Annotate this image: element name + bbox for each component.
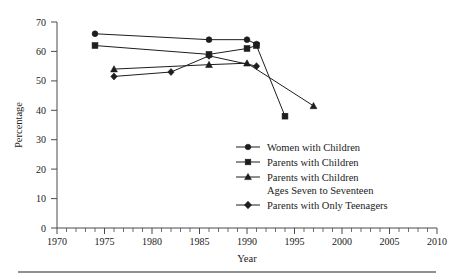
series-parents-with-children-ages-seven-to-seventeen bbox=[111, 60, 317, 109]
x-tick-label: 1970 bbox=[47, 236, 67, 247]
x-tick-label: 1990 bbox=[237, 236, 257, 247]
square-marker-icon bbox=[245, 159, 251, 165]
x-tick-label: 2005 bbox=[380, 236, 400, 247]
triangle-data-marker bbox=[310, 102, 317, 108]
square-data-marker bbox=[244, 46, 250, 52]
legend-label: Parents with Children bbox=[267, 172, 359, 183]
line-chart: 0 10 20 30 40 50 60 70 Percentage bbox=[0, 0, 454, 279]
y-tick-label: 70 bbox=[36, 17, 46, 28]
series-line bbox=[114, 63, 314, 106]
x-tick-label: 1995 bbox=[285, 236, 305, 247]
circle-marker-icon bbox=[245, 144, 251, 150]
x-tick-label: 2010 bbox=[427, 236, 447, 247]
y-tick-label: 40 bbox=[36, 105, 46, 116]
square-data-marker bbox=[254, 43, 260, 49]
chart-figure: 0 10 20 30 40 50 60 70 Percentage bbox=[0, 0, 454, 279]
x-axis-title: Year bbox=[237, 253, 257, 264]
y-tick-label: 0 bbox=[41, 223, 46, 234]
x-tick-label: 1985 bbox=[190, 236, 210, 247]
circle-data-marker bbox=[92, 31, 98, 37]
series-parents-with-only-teenagers bbox=[111, 52, 260, 80]
diamond-data-marker bbox=[253, 63, 259, 70]
y-tick-label: 10 bbox=[36, 193, 46, 204]
diamond-marker-icon bbox=[244, 201, 251, 209]
y-axis-ticks bbox=[51, 22, 57, 228]
legend-entry-parents-with-only-teenagers: Parents with Only Teenagers bbox=[236, 200, 388, 211]
x-tick-label: 1975 bbox=[95, 236, 115, 247]
square-data-marker bbox=[282, 113, 288, 119]
y-tick-label: 50 bbox=[36, 75, 46, 86]
y-axis-tick-labels: 0 10 20 30 40 50 60 70 bbox=[36, 17, 46, 234]
circle-data-marker bbox=[206, 37, 212, 43]
y-tick-label: 20 bbox=[36, 164, 46, 175]
y-axis: 0 10 20 30 40 50 60 70 Percentage bbox=[13, 17, 57, 234]
diamond-data-marker bbox=[111, 73, 117, 80]
legend-entry-parents-with-children: Parents with Children bbox=[236, 157, 359, 168]
y-axis-title: Percentage bbox=[13, 102, 24, 148]
plot-area bbox=[92, 31, 317, 119]
series-women-with-children bbox=[92, 31, 259, 47]
legend-label-line2: Ages Seven to Seventeen bbox=[267, 185, 374, 196]
legend-entry-parents-with-children-ages-seven-to-seventeen: Parents with Children Ages Seven to Seve… bbox=[236, 172, 374, 196]
x-axis-tick-labels: 1970 1975 1980 1985 1990 1995 2000 2005 … bbox=[47, 236, 447, 247]
series-parents-with-children bbox=[92, 43, 288, 119]
chart-legend: Women with Children Parents with Childre… bbox=[236, 142, 388, 211]
series-line bbox=[114, 56, 257, 77]
circle-data-marker bbox=[244, 37, 250, 43]
square-data-marker bbox=[92, 43, 98, 49]
legend-entry-women-with-children: Women with Children bbox=[236, 142, 361, 153]
y-tick-label: 60 bbox=[36, 46, 46, 57]
legend-label: Women with Children bbox=[267, 142, 361, 153]
series-line bbox=[95, 46, 285, 117]
x-tick-label: 2000 bbox=[332, 236, 352, 247]
x-tick-label: 1980 bbox=[142, 236, 162, 247]
legend-label: Parents with Only Teenagers bbox=[267, 200, 388, 211]
diamond-data-marker bbox=[168, 69, 174, 76]
legend-label: Parents with Children bbox=[267, 157, 359, 168]
y-tick-label: 30 bbox=[36, 134, 46, 145]
series-line bbox=[95, 34, 257, 44]
x-axis: 1970 1975 1980 1985 1990 1995 2000 2005 … bbox=[47, 228, 447, 264]
